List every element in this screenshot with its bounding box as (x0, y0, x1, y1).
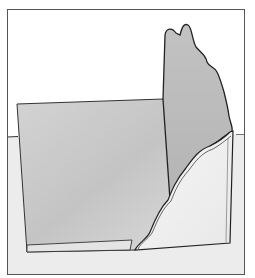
illustration-canvas (0, 0, 255, 278)
sculpture-drawing (0, 0, 255, 278)
horizon-left (7, 137, 18, 138)
